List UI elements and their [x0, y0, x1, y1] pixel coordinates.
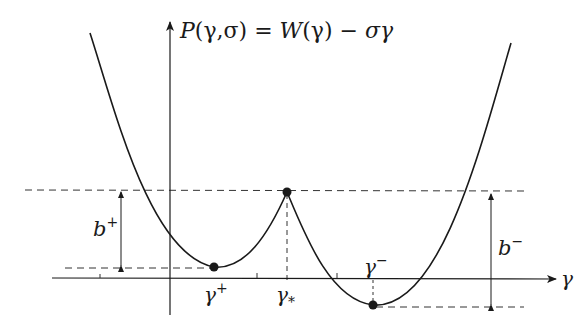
energy-diagram: P(γ,σ) = W(γ) − σγ γ γ+ γ* γ− b+ b− — [0, 0, 581, 333]
gamma-plus-label: γ+ — [204, 280, 228, 307]
gamma-plus-point — [210, 263, 219, 272]
gamma-minus-point — [369, 301, 378, 310]
gamma-star-point — [283, 188, 292, 197]
figure-title: P(γ,σ) = W(γ) − σγ — [179, 18, 394, 43]
gamma-star-label: γ* — [276, 283, 295, 310]
x-axis — [52, 278, 556, 279]
b-plus-label: b+ — [93, 214, 118, 241]
b-minus-label: b− — [498, 233, 523, 260]
potential-curve-left-branch — [90, 33, 287, 267]
potential-curve-right-branch — [287, 43, 511, 305]
gamma-minus-label: γ− — [364, 252, 388, 279]
barrier-level-dashed-line — [25, 190, 524, 191]
x-axis-label: γ — [561, 267, 573, 291]
